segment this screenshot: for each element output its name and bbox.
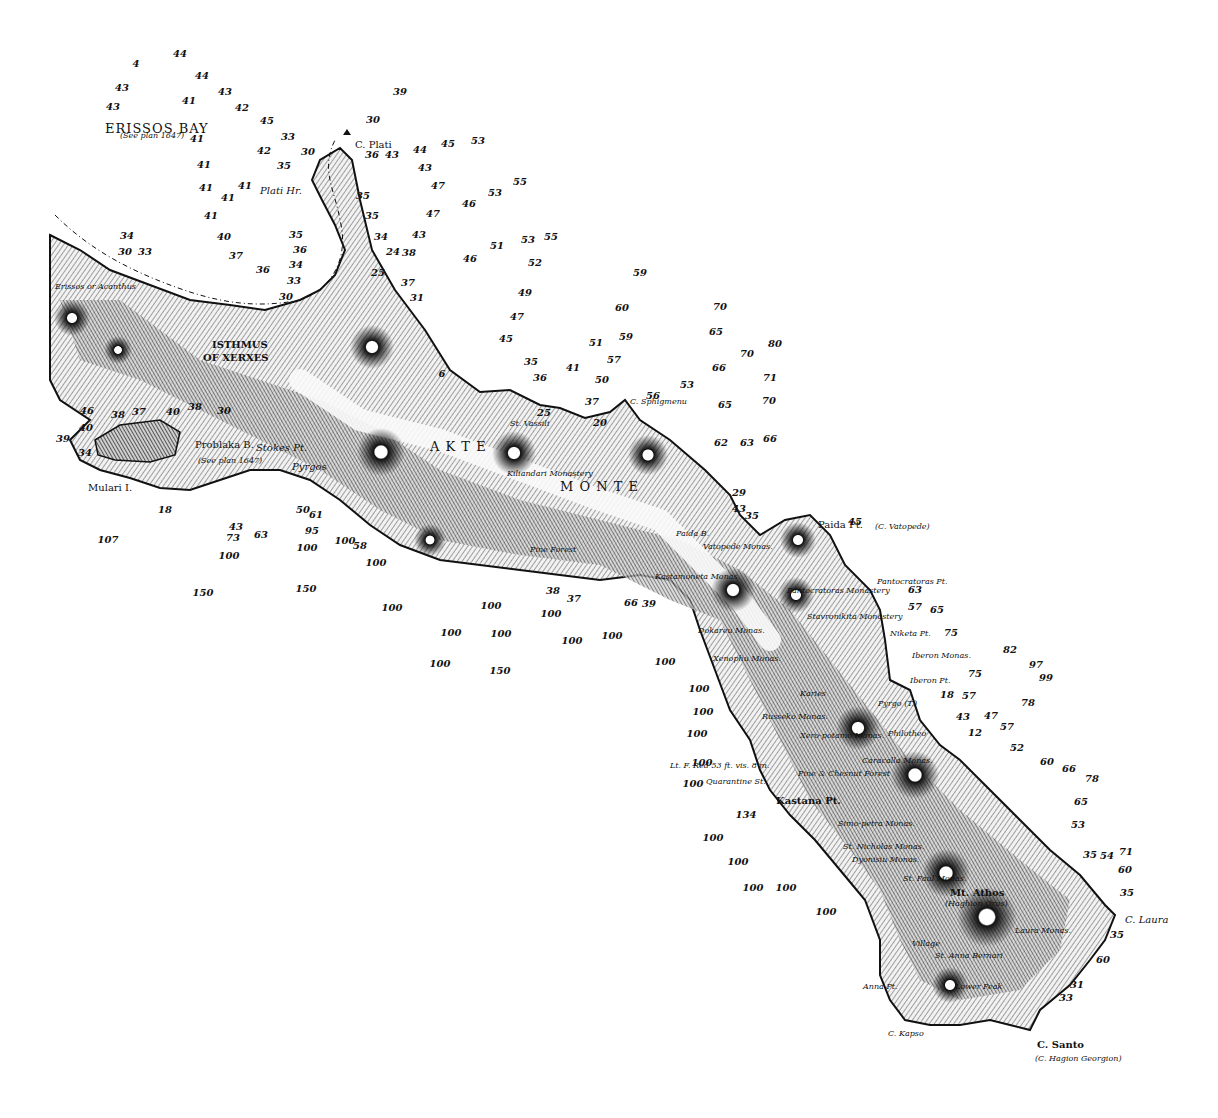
place-label-pyrgo: Pyrgo (T.)	[878, 700, 917, 708]
depth-sounding: 29	[732, 488, 746, 498]
depth-sounding: 34	[120, 231, 134, 241]
depth-sounding: 52	[1010, 743, 1024, 753]
place-label-c_hagion: (C. Hagion Georgion)	[1035, 1055, 1122, 1063]
depth-sounding: 100	[491, 629, 512, 639]
depth-sounding: 41	[190, 134, 204, 144]
place-label-c_kapso: C. Kapso	[888, 1030, 924, 1038]
depth-sounding: 100	[441, 628, 462, 638]
place-label-problaka_note: (See plan 1647)	[198, 457, 262, 465]
place-label-c_vatopede: (C. Vatopede)	[875, 523, 930, 531]
depth-sounding: 63	[740, 438, 754, 448]
depth-sounding: 36	[293, 245, 307, 255]
depth-sounding: 33	[281, 132, 295, 142]
depth-sounding: 53	[521, 235, 535, 245]
place-label-c_laura: C. Laura	[1125, 915, 1168, 925]
place-label-of_xerxes: OF XERXES	[203, 353, 269, 363]
depth-sounding: 53	[680, 380, 694, 390]
depth-sounding: 25	[371, 268, 385, 278]
depth-sounding: 73	[226, 533, 240, 543]
depth-sounding: 37	[132, 407, 146, 417]
depth-sounding: 60	[1040, 757, 1054, 767]
depth-sounding: 100	[683, 779, 704, 789]
depth-sounding: 57	[1000, 722, 1014, 732]
depth-sounding: 100	[382, 603, 403, 613]
place-label-lower_peak: Lower Peak	[955, 983, 1002, 991]
depth-sounding: 43	[732, 504, 746, 514]
depth-sounding: 40	[79, 423, 93, 433]
depth-sounding: 33	[1059, 993, 1073, 1003]
place-label-paida_b: Paida B.	[676, 530, 709, 538]
place-label-pantocratoras_mon: Pantocratoras Monastery	[787, 587, 890, 595]
depth-sounding: 36	[365, 150, 379, 160]
place-label-kastana: Kastana Pt.	[776, 796, 841, 806]
depth-sounding: 45	[260, 116, 274, 126]
place-label-haghion_oros: (Haghion Oros)	[945, 900, 1008, 908]
depth-sounding: 25	[537, 408, 551, 418]
depth-sounding: 30	[366, 115, 380, 125]
depth-sounding: 45	[848, 517, 862, 527]
depth-sounding: 35	[356, 191, 370, 201]
depth-sounding: 44	[413, 145, 427, 155]
depth-sounding: 34	[374, 232, 388, 242]
depth-sounding: 43	[956, 712, 970, 722]
depth-sounding: 54	[1100, 851, 1114, 861]
depth-sounding: 43	[418, 163, 432, 173]
place-label-isthmus: ISTHMUS	[212, 340, 268, 350]
depth-sounding: 65	[718, 400, 732, 410]
depth-sounding: 80	[768, 339, 782, 349]
depth-sounding: 35	[289, 230, 303, 240]
depth-sounding: 36	[533, 373, 547, 383]
depth-sounding: 42	[257, 146, 271, 156]
depth-sounding: 41	[182, 96, 196, 106]
depth-sounding: 12	[968, 728, 982, 738]
place-label-st_nicholas: St. Nicholas Monas.	[843, 843, 924, 851]
depth-sounding: 39	[393, 87, 407, 97]
depth-sounding: 100	[541, 609, 562, 619]
place-label-pyrgos: Pyrgos	[292, 462, 327, 472]
depth-sounding: 100	[481, 601, 502, 611]
place-label-iberon_mon: Iberon Monas.	[912, 652, 971, 660]
depth-sounding: 56	[646, 391, 660, 401]
place-label-niketa: Niketa Pt.	[890, 630, 931, 638]
depth-sounding: 50	[296, 505, 310, 515]
depth-sounding: 20	[593, 418, 607, 428]
depth-sounding: 63	[908, 585, 922, 595]
depth-sounding: 100	[689, 684, 710, 694]
place-label-pine_forest: Pine Forest	[530, 546, 576, 554]
place-label-kastamoneta: Kastamoneta Monas.	[655, 573, 740, 581]
place-label-stokes: Stokes Pt.	[256, 443, 307, 453]
depth-sounding: 30	[217, 406, 231, 416]
place-label-monte: M O N T E	[560, 480, 639, 493]
depth-sounding: 82	[1003, 645, 1017, 655]
place-label-c_santo: C. Santo	[1037, 1040, 1084, 1050]
depth-sounding: 41	[197, 160, 211, 170]
place-label-quarantine: Quarantine St.	[706, 778, 766, 786]
depth-sounding: 107	[98, 535, 119, 545]
depth-sounding: 31	[1070, 980, 1084, 990]
depth-sounding: 36	[256, 265, 270, 275]
place-label-erissos: Erissos or Acanthus	[55, 283, 136, 291]
depth-sounding: 100	[366, 558, 387, 568]
depth-sounding: 71	[763, 373, 777, 383]
place-label-anna_bernari: St. Anna Bernari	[935, 952, 1003, 960]
depth-sounding: 38	[402, 248, 416, 258]
depth-sounding: 45	[499, 334, 513, 344]
place-label-xero: Xero-potamo Monas.	[800, 732, 884, 740]
depth-sounding: 47	[431, 181, 445, 191]
depth-sounding: 41	[199, 183, 213, 193]
place-label-mulari: Mulari I.	[88, 483, 132, 493]
depth-sounding: 78	[1021, 698, 1035, 708]
depth-sounding: 150	[296, 584, 317, 594]
depth-sounding: 37	[401, 278, 415, 288]
nautical-chart	[0, 0, 1218, 1118]
depth-sounding: 43	[412, 230, 426, 240]
depth-sounding: 35	[1110, 930, 1124, 940]
depth-sounding: 43	[385, 150, 399, 160]
depth-sounding: 30	[118, 247, 132, 257]
depth-sounding: 57	[908, 602, 922, 612]
depth-sounding: 37	[585, 397, 599, 407]
depth-sounding: 100	[219, 551, 240, 561]
depth-sounding: 100	[297, 543, 318, 553]
depth-sounding: 66	[712, 363, 726, 373]
depth-sounding: 60	[1096, 955, 1110, 965]
